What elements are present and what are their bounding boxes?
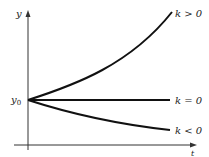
x-axis-label: t bbox=[191, 149, 195, 157]
label-k-positive: k > 0 bbox=[175, 8, 203, 19]
curve-k-negative bbox=[28, 100, 170, 130]
growth-decay-chart: y t y0 k > 0 k = 0 k < 0 bbox=[0, 0, 209, 157]
y0-label: y0 bbox=[10, 94, 21, 107]
curve-k-positive bbox=[28, 12, 172, 100]
label-k-zero: k = 0 bbox=[175, 95, 203, 106]
y-axis-arrow-icon bbox=[26, 10, 31, 17]
y-axis-label: y bbox=[15, 8, 22, 19]
label-k-negative: k < 0 bbox=[175, 125, 203, 136]
x-axis-arrow-icon bbox=[190, 143, 197, 148]
